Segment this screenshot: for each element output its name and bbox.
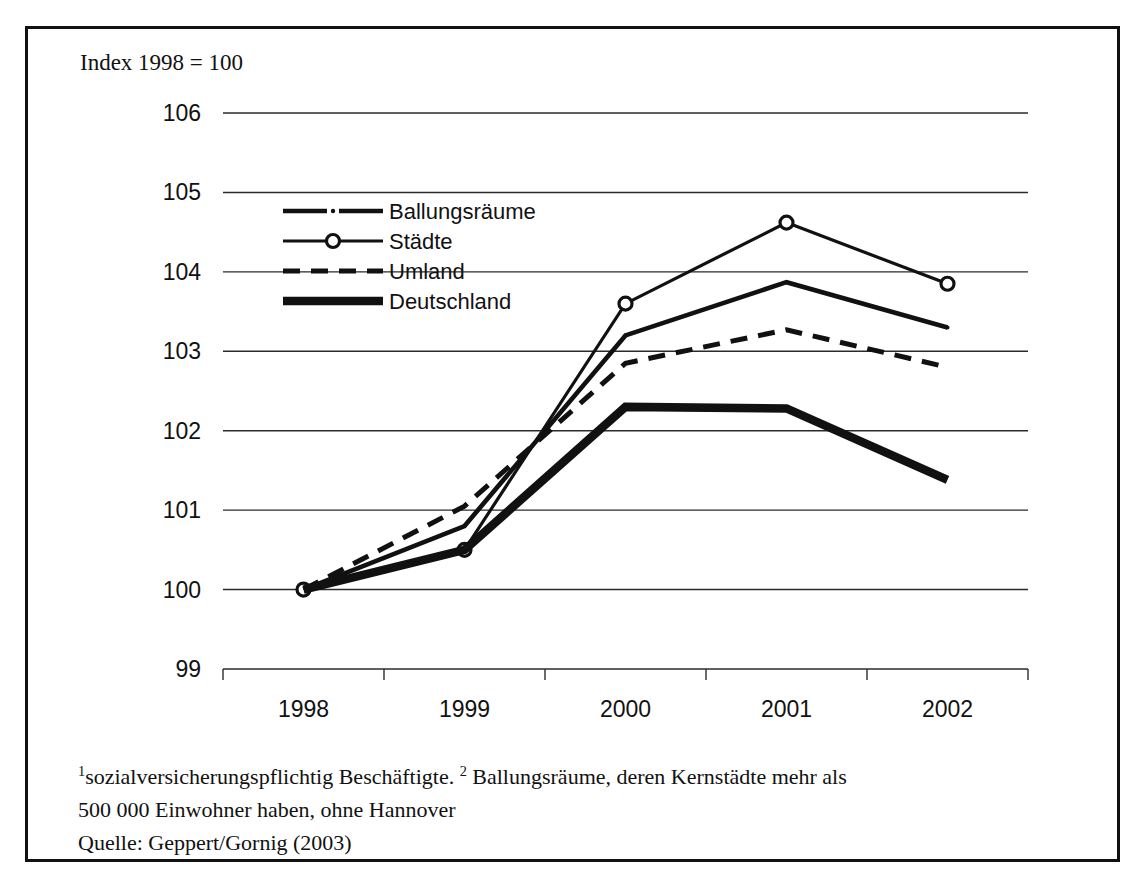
legend-swatch-marker (327, 235, 340, 248)
y-tick-label: 105 (163, 179, 201, 205)
footnotes-block: 1sozialversicherungspflichtig Beschäftig… (78, 755, 1078, 859)
y-tick-label: 102 (163, 418, 201, 444)
y-tick-label: 99 (175, 656, 201, 682)
x-tick-label: 1999 (439, 696, 490, 722)
y-axis-tick-labels: 99100101102103104105106 (163, 100, 202, 682)
data-point-marker (463, 524, 467, 528)
footnote-1-text-b: Ballungsräume, deren Kernstädte mehr als (467, 764, 847, 789)
y-tick-label: 104 (163, 259, 202, 285)
line-chart: 99100101102103104105106 1998199920002001… (28, 29, 1117, 859)
data-point-marker (785, 280, 789, 284)
x-tick-label: 1998 (278, 696, 329, 722)
data-point-marker (780, 216, 793, 229)
legend-label: Ballungsräume (389, 199, 536, 224)
data-point-marker (946, 325, 950, 329)
x-tick-label: 2002 (922, 696, 973, 722)
footnote-marker-2: 2 (460, 763, 467, 779)
footnote-1-text-a: sozialversicherungspflichtig Beschäftigt… (85, 764, 460, 789)
footnote-line-1: 1sozialversicherungspflichtig Beschäftig… (78, 755, 1078, 793)
legend-swatch (331, 209, 335, 213)
x-axis (223, 669, 1028, 680)
y-tick-label: 106 (163, 100, 201, 126)
legend-label: Deutschland (389, 289, 511, 314)
legend-label: Städte (389, 229, 453, 254)
x-tick-label: 2000 (600, 696, 651, 722)
data-point-marker (941, 277, 954, 290)
series-line (304, 407, 948, 590)
chart-legend: BallungsräumeStädteUmlandDeutschland (283, 199, 536, 314)
footnote-source: Quelle: Geppert/Gornig (2003) (78, 826, 1078, 859)
legend-label: Umland (389, 259, 465, 284)
x-tick-label: 2001 (761, 696, 812, 722)
data-point-marker (624, 333, 628, 337)
gridlines (223, 113, 1028, 590)
y-tick-label: 100 (163, 577, 201, 603)
footnote-line-2: 500 000 Einwohner haben, ohne Hannover (78, 793, 1078, 826)
data-point-marker (619, 297, 632, 310)
figure-frame: Index 1998 = 100 99100101102103104105106… (25, 26, 1120, 862)
y-tick-label: 103 (163, 338, 201, 364)
y-tick-label: 101 (163, 497, 201, 523)
x-axis-tick-labels: 19981999200020012002 (278, 696, 973, 722)
